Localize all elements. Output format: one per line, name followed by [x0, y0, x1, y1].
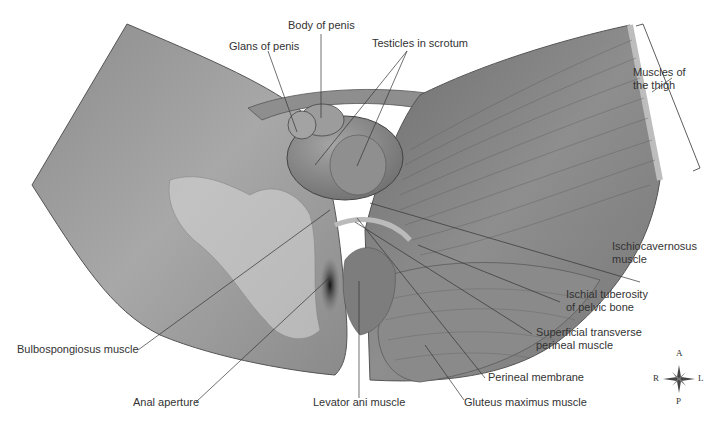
compass-posterior: P — [676, 396, 681, 406]
compass-right: R — [653, 373, 659, 383]
external-genitalia — [287, 104, 403, 200]
label-muscles-of-thigh-1: Muscles of — [633, 66, 686, 79]
compass-rose-icon — [663, 365, 695, 393]
label-ischial-tuberosity-1: Ischial tuberosity — [566, 288, 648, 301]
compass-left: L — [698, 373, 704, 383]
perineum-illustration — [0, 0, 718, 423]
label-levator-ani: Levator ani muscle — [313, 396, 405, 409]
label-body-of-penis: Body of penis — [288, 19, 355, 32]
label-superficial-transverse-2: perineal muscle — [536, 339, 613, 352]
label-ischiocavernosus-2: muscle — [612, 253, 647, 266]
anal-aperture — [320, 257, 340, 313]
label-muscles-of-thigh-2: the thigh — [633, 79, 675, 92]
label-gluteus-maximus: Gluteus maximus muscle — [464, 396, 587, 409]
label-perineal-membrane: Perineal membrane — [488, 371, 584, 384]
label-glans-of-penis: Glans of penis — [229, 40, 299, 53]
label-ischiocavernosus-1: Ischiocavernosus — [612, 240, 697, 253]
compass-anterior: A — [676, 348, 683, 358]
label-bulbospongiosus: Bulbospongiosus muscle — [17, 343, 139, 356]
label-superficial-transverse-1: Superficial transverse — [536, 326, 642, 339]
label-ischial-tuberosity-2: of pelvic bone — [566, 301, 634, 314]
label-testicles-in-scrotum: Testicles in scrotum — [372, 37, 468, 50]
label-anal-aperture: Anal aperture — [133, 396, 199, 409]
